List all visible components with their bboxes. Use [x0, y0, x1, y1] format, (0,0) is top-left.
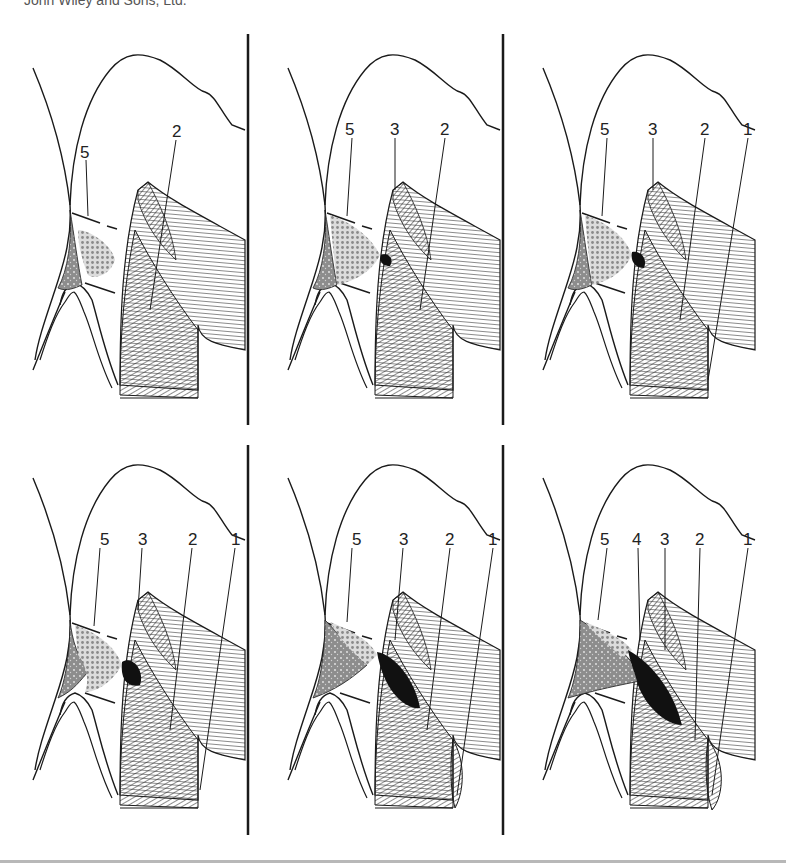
panel-3: 5 3 2 1: [543, 55, 755, 398]
label-4: 4: [632, 530, 641, 549]
label-1: 1: [743, 120, 752, 139]
panel-6: 5 4 3 2 1: [543, 465, 755, 810]
label-3: 3: [390, 120, 399, 139]
label-5: 5: [345, 120, 354, 139]
label-2: 2: [172, 122, 181, 141]
label-2: 2: [440, 120, 449, 139]
label-2: 2: [188, 530, 197, 549]
label-5: 5: [600, 120, 609, 139]
label-1: 1: [488, 530, 497, 549]
panel-4: 5 3 2 1: [33, 465, 245, 808]
bottom-rule: [0, 860, 786, 863]
label-2: 2: [695, 530, 704, 549]
label-5: 5: [80, 143, 89, 162]
label-3: 3: [660, 530, 669, 549]
label-3: 3: [399, 530, 408, 549]
panel-2: 5 3 2: [288, 55, 500, 398]
label-3: 3: [138, 530, 147, 549]
panel-5: 5 3 2 1: [288, 465, 500, 808]
label-2: 2: [700, 120, 709, 139]
dental-development-figure: 5 2 5 3 2 5 3 2 1 5: [0, 0, 786, 867]
label-5: 5: [352, 530, 361, 549]
label-3: 3: [648, 120, 657, 139]
label-1: 1: [231, 530, 240, 549]
label-5: 5: [600, 530, 609, 549]
label-1: 1: [743, 530, 752, 549]
label-5: 5: [100, 530, 109, 549]
panel-1: 5 2: [33, 55, 245, 398]
label-2: 2: [445, 530, 454, 549]
